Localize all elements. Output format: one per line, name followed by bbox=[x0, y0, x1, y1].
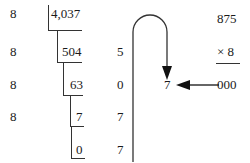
multiplier: × 8 bbox=[217, 45, 234, 59]
octal-conversion-diagram: 8 8 8 8 4,037 504 63 7 0 5 0 7 7 7 875 ×… bbox=[0, 0, 250, 163]
multiplicand: 875 bbox=[217, 12, 237, 26]
loop-down-arrow-icon bbox=[0, 0, 250, 163]
product: 000 bbox=[217, 78, 237, 92]
result-digit: 7 bbox=[164, 78, 171, 92]
multiplication-rule bbox=[216, 63, 240, 64]
